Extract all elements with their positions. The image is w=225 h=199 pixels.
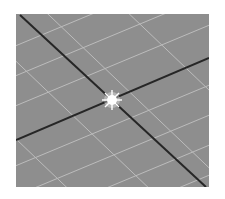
grid-floor: [16, 14, 209, 187]
3d-viewport[interactable]: [16, 14, 209, 187]
origin-marker-icon: [102, 90, 122, 110]
